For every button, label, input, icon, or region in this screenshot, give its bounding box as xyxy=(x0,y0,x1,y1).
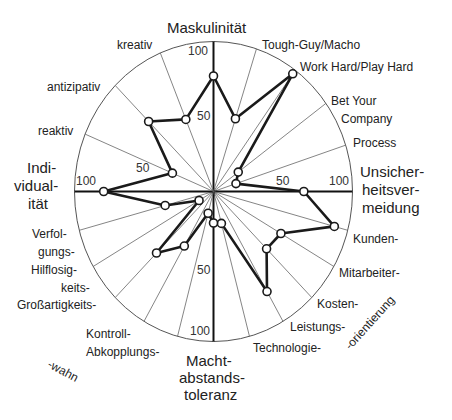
axis-label-abkopplungs: Abkopplungs- xyxy=(86,345,159,359)
spoke-line xyxy=(79,192,213,231)
tick-right-100: 100 xyxy=(329,174,349,188)
spoke-line xyxy=(214,192,348,231)
axis-label-macht-3: toleranz xyxy=(184,387,237,403)
axis-label-kunden: Kunden- xyxy=(353,232,398,246)
radar-grid xyxy=(75,42,353,342)
axis-label-individualitaet-3: ität xyxy=(28,196,48,212)
axis-label-grossartigkeits: Großartigkeits- xyxy=(17,298,96,312)
axis-label-tough-guy: Tough-Guy/Macho xyxy=(262,38,360,52)
data-point-marker xyxy=(277,230,285,238)
data-point-marker xyxy=(182,115,190,123)
axis-label-process: Process xyxy=(353,136,396,150)
axis-label-verfolgungs-2: gungs- xyxy=(38,245,75,259)
spoke-line xyxy=(214,192,284,322)
tick-left-50: 50 xyxy=(136,161,149,175)
data-point-marker xyxy=(289,70,297,78)
spoke-line xyxy=(214,192,250,337)
axis-label-kreativ: kreativ xyxy=(117,38,152,52)
axis-label-individualitaet-1: Indi- xyxy=(27,160,56,176)
axis-label-mitarbeiter: Mitarbeiter- xyxy=(339,266,400,280)
axis-label-reaktiv: reaktiv xyxy=(38,124,73,138)
data-point-marker xyxy=(145,117,153,125)
data-point-marker xyxy=(152,249,160,257)
axis-label-kontroll: Kontroll- xyxy=(86,327,131,341)
axis-label-work-hard: Work Hard/Play Hard xyxy=(300,60,413,74)
data-point-marker xyxy=(217,219,225,227)
data-point-marker xyxy=(234,168,242,176)
axis-label-macht-1: Macht- xyxy=(186,353,232,369)
axis-label-unsicherheit-1: Unsicher- xyxy=(360,164,424,180)
axis-label-antizipativ: antizipativ xyxy=(47,80,100,94)
tick-bottom-50: 50 xyxy=(197,263,210,277)
data-point-marker xyxy=(300,188,308,196)
axis-label-bet-your-company-2: Company xyxy=(341,112,392,126)
data-point-marker xyxy=(100,188,108,196)
axis-label-maskulinitaet: Maskulinität xyxy=(167,20,246,36)
data-point-marker xyxy=(168,169,176,177)
data-point-marker xyxy=(330,222,338,230)
axis-label-verfolgungs-1: Verfol- xyxy=(32,227,67,241)
tick-bottom-100: 100 xyxy=(190,324,210,338)
axis-label-individualitaet-2: vidual- xyxy=(14,178,58,194)
axis-label-macht-2: abstands- xyxy=(179,370,245,386)
axis-label-unsicherheit-3: meidung xyxy=(362,200,420,216)
spoke-line xyxy=(214,192,312,298)
data-point-marker xyxy=(195,197,203,205)
data-point-marker xyxy=(210,219,218,227)
data-point-marker xyxy=(204,209,212,217)
tick-top-100: 100 xyxy=(188,44,208,58)
tick-top-50: 50 xyxy=(197,109,210,123)
axis-label-bet-your-company-1: Bet Your xyxy=(331,94,376,108)
data-point-marker xyxy=(263,245,271,253)
data-point-marker xyxy=(263,288,271,296)
axis-label-leistungs: Leistungs- xyxy=(290,320,345,334)
data-point-marker xyxy=(180,242,188,250)
data-point-marker xyxy=(231,115,239,123)
axis-label-kosten: Kosten- xyxy=(317,297,358,311)
axis-label-hilflosigkeits-2: keits- xyxy=(61,281,90,295)
data-point-marker xyxy=(210,72,218,80)
axis-label-unsicherheit-2: heitsver- xyxy=(362,182,420,198)
data-point-marker xyxy=(161,201,169,209)
axis-label-hilflosigkeits-1: Hilflosig- xyxy=(31,263,77,277)
data-point-marker xyxy=(232,180,240,188)
tick-right-50: 50 xyxy=(276,174,289,188)
tick-left-100: 100 xyxy=(76,174,96,188)
axis-label-technologie: Technologie- xyxy=(253,341,321,355)
